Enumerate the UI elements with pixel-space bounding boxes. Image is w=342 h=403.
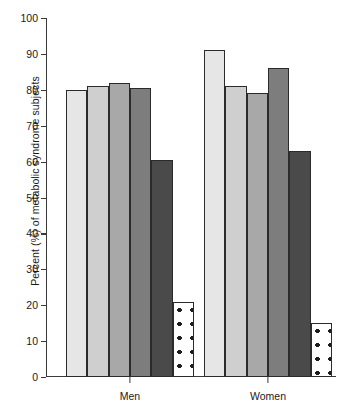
x-axis-label-women: Women [250, 390, 286, 402]
bar-women-bar-6 [311, 323, 332, 377]
y-tick-label-50: 50 [26, 192, 38, 203]
bar-men-bar-4 [130, 88, 151, 377]
y-tick-0 [41, 377, 46, 378]
bar-series-container [46, 18, 336, 377]
bar-men-bar-3 [109, 83, 130, 377]
y-tick-label-10: 10 [26, 336, 38, 347]
y-tick-label-80: 80 [26, 85, 38, 96]
plot-area: 1009080706050403020100 MenWomen [46, 18, 336, 377]
y-tick-label-70: 70 [26, 120, 38, 131]
bar-chart: Percent (%) of metabolic syndrome subjec… [0, 0, 342, 403]
y-tick-label-90: 90 [26, 49, 38, 60]
y-tick-label-20: 20 [26, 300, 38, 311]
bar-women-bar-2 [225, 86, 246, 377]
bar-men-bar-6 [173, 302, 194, 377]
y-tick-label-100: 100 [20, 13, 38, 24]
x-tick-men [129, 377, 130, 383]
bar-men-bar-1 [66, 90, 87, 377]
bar-women-bar-5 [289, 151, 310, 377]
y-tick-label-30: 30 [26, 264, 38, 275]
y-tick-label-40: 40 [26, 228, 38, 239]
x-axis-label-men: Men [120, 390, 140, 402]
bar-men-bar-2 [87, 86, 108, 377]
y-tick-label-0: 0 [32, 372, 38, 383]
bar-women-bar-3 [247, 93, 268, 377]
bar-men-bar-5 [151, 160, 172, 377]
y-tick-label-60: 60 [26, 156, 38, 167]
x-tick-women [267, 377, 268, 383]
bar-women-bar-1 [204, 50, 225, 377]
bar-women-bar-4 [268, 68, 289, 377]
